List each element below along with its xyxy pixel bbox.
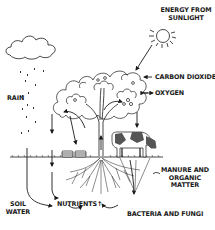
bacteria-and-fungi-label: BACTERIA AND FUNGI bbox=[127, 211, 203, 219]
nutrient-cycle-illustration bbox=[0, 0, 215, 230]
oxygen-label: OXYGEN bbox=[155, 90, 184, 98]
baskets bbox=[62, 151, 86, 157]
manure-line-3: MATTER bbox=[160, 182, 210, 190]
energy-line-2: SUNLIGHT bbox=[158, 15, 214, 23]
sun-icon bbox=[149, 30, 176, 49]
cow-icon bbox=[112, 132, 156, 157]
nutrients-label: NUTRIENTS↑ bbox=[57, 201, 102, 209]
carbon-dioxide-label: CARBON DIOXIDE bbox=[155, 74, 215, 82]
nutrients-text: NUTRIENTS bbox=[57, 200, 97, 208]
manure-and-organic-matter-label: MANURE AND ORGANIC MATTER bbox=[160, 167, 210, 190]
nutrients-up-arrow-icon: ↑ bbox=[97, 200, 102, 208]
cycle-arrows bbox=[27, 45, 160, 208]
cloud-icon bbox=[6, 36, 55, 59]
tree-roots bbox=[66, 158, 150, 194]
rain-label: RAIN bbox=[7, 95, 24, 103]
soil-water-label: SOIL WATER bbox=[5, 201, 31, 216]
soil-line-2: WATER bbox=[5, 209, 31, 217]
energy-from-sunlight-label: ENERGY FROM SUNLIGHT bbox=[158, 7, 214, 22]
